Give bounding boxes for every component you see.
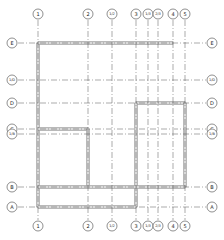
- column-bubble-bottom-1-2: 1/2: [107, 221, 117, 231]
- row-bubble-left-1-D: 1/D: [7, 75, 17, 85]
- column-bubble-bottom-1: 1: [33, 221, 43, 231]
- svg-text:2: 2: [86, 223, 89, 229]
- row-bubble-left-E: E: [7, 38, 17, 48]
- svg-text:2: 2: [86, 11, 89, 17]
- svg-text:3: 3: [134, 223, 137, 229]
- row-bubble-left-B: B: [7, 182, 17, 192]
- column-bubble-top-1-2: 1/2: [107, 9, 117, 19]
- column-bubble-bottom-2: 2: [83, 221, 93, 231]
- svg-text:1/2: 1/2: [109, 12, 115, 16]
- column-bubble-top-2-3: 2/3: [153, 9, 163, 19]
- column-bubble-bottom-2-3: 2/3: [153, 221, 163, 231]
- column-bubble-bottom-3: 3: [131, 221, 141, 231]
- svg-text:E: E: [10, 40, 13, 46]
- row-bubble-right-A: A: [207, 202, 217, 212]
- svg-text:5: 5: [183, 223, 186, 229]
- svg-text:3: 3: [134, 11, 137, 17]
- svg-text:1: 1: [36, 223, 39, 229]
- walls: [37, 42, 187, 209]
- svg-text:1/D: 1/D: [209, 78, 215, 82]
- svg-text:1/D: 1/D: [9, 78, 15, 82]
- svg-text:1/2: 1/2: [109, 224, 115, 228]
- svg-text:5: 5: [183, 11, 186, 17]
- column-bubble-bottom-1-3: 1/3: [143, 221, 153, 231]
- svg-text:1/B: 1/B: [9, 132, 15, 136]
- column-bubble-top-2: 2: [83, 9, 93, 19]
- svg-text:E: E: [210, 40, 213, 46]
- column-bubble-top-1-3: 1/3: [143, 9, 153, 19]
- grid-plan: 11221/21/2331/31/32/32/34455EE1/D1/DDDCC…: [0, 0, 224, 240]
- column-bubble-bottom-5: 5: [180, 221, 190, 231]
- row-bubble-left-D: D: [7, 98, 17, 108]
- svg-text:2/3: 2/3: [155, 12, 161, 16]
- row-bubble-right-1-D: 1/D: [207, 75, 217, 85]
- svg-text:D: D: [210, 100, 214, 106]
- svg-text:A: A: [10, 204, 14, 210]
- row-bubble-left-A: A: [7, 202, 17, 212]
- svg-text:1: 1: [36, 11, 39, 17]
- row-bubble-right-D: D: [207, 98, 217, 108]
- column-bubble-bottom-4: 4: [168, 221, 178, 231]
- svg-text:1/B: 1/B: [209, 132, 215, 136]
- svg-text:A: A: [210, 204, 214, 210]
- row-bubble-right-E: E: [207, 38, 217, 48]
- svg-text:1/3: 1/3: [145, 224, 151, 228]
- svg-text:4: 4: [171, 223, 174, 229]
- column-bubble-top-1: 1: [33, 9, 43, 19]
- row-bubble-left-1-B: 1/B: [7, 129, 17, 139]
- row-bubble-right-1-B: 1/B: [207, 129, 217, 139]
- svg-text:4: 4: [171, 11, 174, 17]
- column-bubble-top-5: 5: [180, 9, 190, 19]
- svg-text:B: B: [210, 184, 214, 190]
- cad-drawing-canvas: 11221/21/2331/31/32/32/34455EE1/D1/DDDCC…: [0, 0, 224, 240]
- svg-text:B: B: [10, 184, 14, 190]
- svg-text:D: D: [10, 100, 14, 106]
- svg-text:2/3: 2/3: [155, 224, 161, 228]
- column-bubble-top-4: 4: [168, 9, 178, 19]
- svg-text:1/3: 1/3: [145, 12, 151, 16]
- grid-lines: [18, 20, 206, 220]
- column-bubble-top-3: 3: [131, 9, 141, 19]
- row-bubble-right-B: B: [207, 182, 217, 192]
